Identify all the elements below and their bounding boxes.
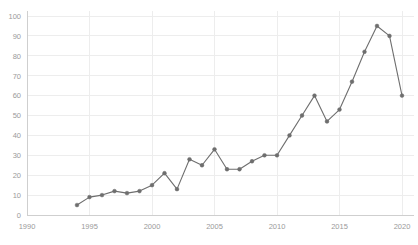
y-axis-tick-label: 10 [13, 191, 21, 200]
x-axis-tick-label: 2000 [144, 222, 161, 231]
data-point-marker [300, 114, 304, 118]
data-point-marker [388, 34, 392, 38]
chart-plot-area: 0102030405060708090100 19901995200020052… [0, 0, 418, 245]
data-point-marker [238, 167, 242, 171]
data-point-marker [313, 94, 317, 98]
data-point-marker [113, 189, 117, 193]
x-axis-tick-label: 1990 [19, 222, 36, 231]
x-axis-tick-label: 1995 [81, 222, 98, 231]
data-point-marker [188, 157, 192, 161]
data-point-marker [100, 193, 104, 197]
data-point-marker [263, 153, 267, 157]
data-point-marker [275, 153, 279, 157]
data-point-marker [375, 24, 379, 28]
y-axis-tick-label: 50 [13, 111, 21, 120]
y-axis-tick-label: 30 [13, 151, 21, 160]
data-point-marker [288, 134, 292, 138]
data-point-marker [75, 203, 79, 207]
y-axis-tick-label: 20 [13, 171, 21, 180]
y-axis-tick-label: 40 [13, 131, 21, 140]
x-axis-tick-labels: 1990199520002005201020152020 [19, 222, 411, 231]
x-axis-tick-label: 2015 [331, 222, 348, 231]
x-axis-tick-label: 2005 [206, 222, 223, 231]
data-point-marker [150, 183, 154, 187]
y-axis-tick-label: 70 [13, 72, 21, 81]
data-point-marker [400, 94, 404, 98]
x-axis-tick-label: 2010 [269, 222, 286, 231]
data-point-marker [200, 163, 204, 167]
data-point-marker [325, 120, 329, 124]
data-point-marker [350, 80, 354, 84]
data-point-marker [225, 167, 229, 171]
y-axis-tick-label: 100 [8, 12, 21, 21]
line-chart: 0102030405060708090100 19901995200020052… [0, 0, 418, 245]
vertical-gridlines [27, 11, 402, 215]
data-point-marker [125, 191, 129, 195]
data-point-marker [250, 159, 254, 163]
y-axis-tick-label: 60 [13, 91, 21, 100]
y-axis-tick-label: 0 [17, 211, 21, 220]
data-point-marker [213, 147, 217, 151]
data-point-marker [163, 171, 167, 175]
data-point-marker [138, 189, 142, 193]
y-axis-tick-label: 90 [13, 32, 21, 41]
data-point-marker [338, 108, 342, 112]
data-point-marker [175, 187, 179, 191]
horizontal-gridlines [27, 16, 414, 215]
data-point-marker [88, 195, 92, 199]
data-point-marker [363, 50, 367, 54]
y-axis-tick-labels: 0102030405060708090100 [8, 12, 21, 220]
x-axis-tick-label: 2020 [394, 222, 411, 231]
y-axis-tick-label: 80 [13, 52, 21, 61]
